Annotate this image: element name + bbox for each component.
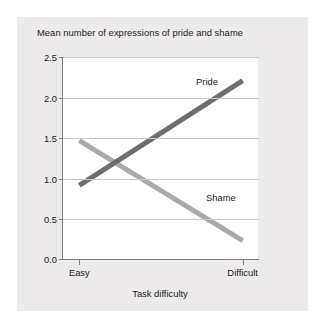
plot-area: 0.00.51.01.52.02.5 EasyDifficult [62, 57, 258, 260]
y-tick-mark [59, 98, 63, 99]
y-tick-mark [59, 259, 63, 260]
x-axis-line [63, 259, 259, 260]
gridline [63, 179, 259, 180]
pride-series-label: Pride [196, 76, 218, 87]
gridline [63, 219, 259, 220]
y-tick-label: 2.0 [44, 92, 57, 103]
x-tick-mark [243, 260, 244, 265]
shame-series-label: Shame [206, 192, 236, 203]
series-lines [63, 57, 259, 260]
gridline [63, 98, 259, 99]
y-tick-label: 2.5 [44, 52, 57, 63]
x-tick-label: Difficult [227, 267, 258, 278]
y-tick-mark [59, 57, 63, 58]
x-tick-mark [79, 260, 80, 265]
y-tick-mark [59, 179, 63, 180]
shame-line [79, 141, 242, 241]
y-tick-mark [59, 138, 63, 139]
pride-line [79, 81, 242, 186]
y-tick-label: 0.5 [44, 214, 57, 225]
y-tick-label: 1.5 [44, 133, 57, 144]
y-tick-label: 1.0 [44, 173, 57, 184]
chart-figure: Mean number of expressions of pride and … [0, 0, 325, 328]
chart-title: Mean number of expressions of pride and … [37, 27, 243, 38]
y-tick-mark [59, 219, 63, 220]
gridline [63, 138, 259, 139]
x-tick-label: Easy [69, 267, 90, 278]
y-tick-label: 0.0 [44, 254, 57, 265]
x-axis-title: Task difficulty [132, 288, 188, 299]
gridline [63, 57, 259, 58]
